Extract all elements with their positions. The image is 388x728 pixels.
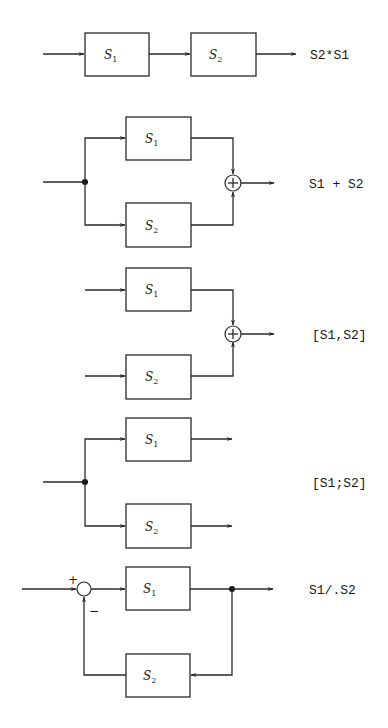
s2-to-sum-arrow — [191, 192, 233, 225]
feedback-to-s2-arrow — [191, 589, 232, 675]
parallel-connection-diagram: S1 S2 S1 + S2 — [43, 117, 364, 247]
s1-to-sum-arrow — [191, 290, 233, 325]
plus-sign: + — [68, 573, 78, 587]
series-expression: S2*S1 — [310, 48, 349, 63]
feedback-connection-diagram: + − S1 S2 S1/.S2 — [22, 567, 356, 697]
append-connection-diagram: S1 S2 [S1,S2] — [85, 268, 367, 399]
block-s2 — [126, 654, 190, 697]
upper-branch-arrow — [85, 138, 125, 182]
stack-connection-diagram: S1 S2 [S1;S2] — [43, 418, 367, 548]
summing-junction-icon — [77, 582, 91, 596]
upper-branch-arrow — [85, 439, 125, 482]
series-connection-diagram: S1 S2 S2*S1 — [43, 33, 349, 76]
block-s1 — [126, 117, 191, 160]
s2-to-sum-arrow — [191, 342, 233, 376]
lower-branch-arrow — [85, 182, 125, 225]
block-s2 — [126, 203, 191, 247]
feedback-expression: S1/.S2 — [309, 583, 356, 598]
s1-to-sum-arrow — [191, 138, 233, 174]
minus-sign: − — [89, 604, 99, 618]
block-s1 — [126, 418, 191, 461]
stack-expression: [S1;S2] — [312, 476, 367, 491]
block-s2 — [126, 355, 191, 399]
block-s2 — [126, 504, 191, 548]
block-diagram-canvas: S1 S2 S2*S1 S1 S2 S1 + S2 S1 S2 — [0, 0, 388, 728]
append-expression: [S1,S2] — [312, 328, 367, 343]
block-s1 — [126, 567, 190, 610]
lower-branch-arrow — [85, 482, 125, 526]
block-s2 — [191, 33, 256, 76]
block-s1 — [126, 268, 191, 311]
parallel-expression: S1 + S2 — [309, 177, 364, 192]
